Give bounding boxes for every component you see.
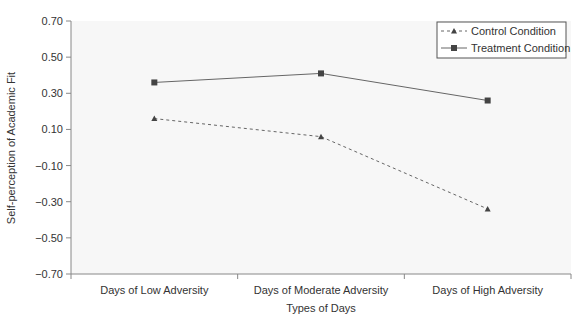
y-tick-label: −0.50 (35, 232, 63, 244)
y-tick-label: −0.10 (35, 160, 63, 172)
y-tick-label: 0.70 (42, 15, 63, 27)
x-tick-label: Days of Low Adversity (100, 284, 209, 296)
y-tick-label: 0.50 (42, 51, 63, 63)
line-chart: 0.700.500.300.10−0.10−0.30−0.50−0.70 Day… (0, 0, 587, 330)
square-marker-icon (451, 45, 457, 51)
x-axis-ticks: Days of Low AdversityDays of Moderate Ad… (71, 274, 571, 296)
y-axis-ticks: 0.700.500.300.10−0.10−0.30−0.50−0.70 (35, 15, 71, 280)
square-marker-icon (318, 70, 324, 76)
plot-area (71, 21, 571, 274)
x-axis-label: Types of Days (286, 302, 356, 314)
y-tick-label: 0.30 (42, 87, 63, 99)
legend-treatment-label: Treatment Condition (471, 42, 570, 54)
legend-control-label: Control Condition (471, 25, 556, 37)
legend: Control Condition Treatment Condition (437, 22, 570, 58)
y-tick-label: −0.70 (35, 268, 63, 280)
y-tick-label: 0.10 (42, 123, 63, 135)
y-tick-label: −0.30 (35, 196, 63, 208)
square-marker-icon (151, 79, 157, 85)
x-tick-label: Days of High Adversity (432, 284, 543, 296)
y-axis-label: Self-perception of Academic Fit (5, 72, 17, 224)
square-marker-icon (485, 98, 491, 104)
x-tick-label: Days of Moderate Adversity (254, 284, 389, 296)
